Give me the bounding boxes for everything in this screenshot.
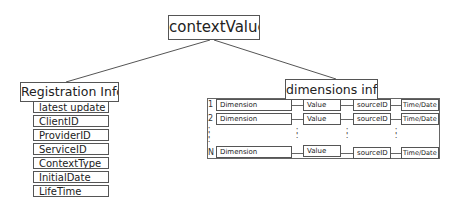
value-cell: Value bbox=[303, 113, 341, 125]
time-date-cell: Time/Date bbox=[401, 147, 439, 159]
registration-item-initial-date: InitialDate bbox=[33, 171, 109, 183]
registration-item-lifetime: LifeTime bbox=[33, 185, 109, 197]
registration-item-client-id: ClientID bbox=[33, 115, 109, 127]
ellipsis-dots: :: bbox=[295, 128, 299, 138]
dimensions-info-node: dimensions info bbox=[285, 79, 378, 100]
source-id-cell: sourceID bbox=[353, 147, 391, 159]
source-id-cell: sourceID bbox=[353, 99, 391, 111]
row-index: 1 bbox=[208, 100, 213, 109]
registration-item-context-type: ContextType bbox=[33, 157, 109, 169]
source-id-cell: sourceID bbox=[353, 113, 391, 125]
time-date-cell: Time/Date bbox=[401, 113, 439, 125]
registration-item-provider-id: ProviderID bbox=[33, 129, 109, 141]
connector-line bbox=[391, 153, 401, 154]
dimension-cell: Dimension bbox=[216, 113, 292, 125]
value-cell: Value bbox=[303, 99, 341, 111]
ellipsis-dots: :: bbox=[345, 128, 349, 138]
ellipsis-dots: ::: bbox=[207, 127, 211, 142]
ellipsis-dots: :: bbox=[394, 128, 398, 138]
time-date-cell: Time/Date bbox=[401, 99, 439, 111]
connector-line bbox=[341, 105, 353, 106]
connector-line bbox=[292, 105, 303, 106]
connector-line bbox=[391, 119, 401, 120]
connector-line bbox=[391, 105, 401, 106]
registration-item-service-id: ServiceID bbox=[33, 143, 109, 155]
dimension-cell: Dimension bbox=[216, 99, 292, 111]
registration-item-latest-update: latest update bbox=[33, 101, 109, 113]
value-cell: Value bbox=[303, 145, 341, 157]
connector-line bbox=[341, 153, 353, 154]
connector-line bbox=[292, 119, 303, 120]
connector-line bbox=[292, 153, 303, 154]
row-index: N bbox=[208, 148, 214, 157]
dimension-cell: Dimension bbox=[216, 146, 292, 158]
context-value-node: contextValue bbox=[168, 15, 260, 40]
registration-info-node: Registration Info bbox=[20, 82, 119, 102]
connector-line bbox=[341, 119, 353, 120]
row-index: 2 bbox=[208, 114, 213, 123]
